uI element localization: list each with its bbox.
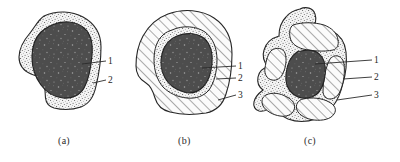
panel-a-callout-2-label: 2 bbox=[108, 75, 113, 85]
figure-diagram: 1 2 1 2 3 bbox=[0, 0, 400, 162]
panel-c-callout-3-leader bbox=[337, 95, 372, 100]
panel-c-dark-core bbox=[286, 50, 326, 98]
panel-b-caption: (b) bbox=[178, 135, 191, 146]
panel-b-callout-1-label: 1 bbox=[238, 61, 243, 71]
panel-a: 1 2 bbox=[19, 12, 113, 109]
panel-b-callout-3-label: 3 bbox=[238, 90, 243, 100]
panel-b-callout-2-label: 2 bbox=[238, 73, 243, 83]
panel-c: 1 2 3 bbox=[254, 8, 379, 122]
panel-b: 1 2 3 bbox=[136, 11, 243, 115]
panel-c-callout-2-label: 2 bbox=[374, 72, 379, 82]
panel-a-dark-core bbox=[32, 22, 92, 98]
panel-c-callout-1-label: 1 bbox=[374, 55, 379, 65]
panel-c-hatched-lobe-top bbox=[290, 23, 339, 51]
panel-c-callout-2-leader bbox=[343, 77, 372, 79]
panel-c-callout-3-label: 3 bbox=[374, 90, 379, 100]
panel-a-caption: (a) bbox=[58, 135, 70, 146]
panel-a-callout-1-label: 1 bbox=[108, 56, 113, 66]
panel-c-caption: (c) bbox=[304, 135, 316, 146]
panel-b-dark-core bbox=[161, 34, 212, 93]
